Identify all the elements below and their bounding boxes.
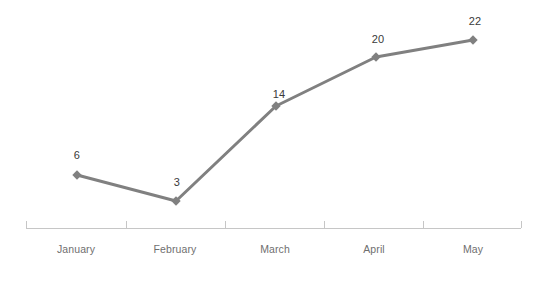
data-point-label: 20 (372, 33, 385, 45)
category-label-may: May (463, 243, 483, 255)
chart-plot-area (0, 0, 543, 281)
category-label-february: February (154, 243, 197, 255)
line-chart: 63142022 JanuaryFebruaryMarchAprilMay (0, 0, 543, 281)
data-point-marker (72, 170, 81, 179)
category-label-april: April (363, 243, 385, 255)
series-markers-1 (72, 35, 477, 205)
series-group (72, 35, 477, 205)
data-point-marker (468, 35, 477, 44)
category-label-march: March (260, 243, 290, 255)
data-point-marker (371, 52, 380, 61)
x-axis (26, 221, 522, 229)
series-line-1 (77, 40, 473, 201)
data-point-label: 3 (174, 176, 180, 188)
data-point-label: 14 (273, 88, 286, 100)
x-axis-ticks (27, 221, 522, 228)
category-label-january: January (57, 243, 95, 255)
data-point-label: 6 (74, 149, 80, 161)
data-point-label: 22 (469, 15, 482, 27)
